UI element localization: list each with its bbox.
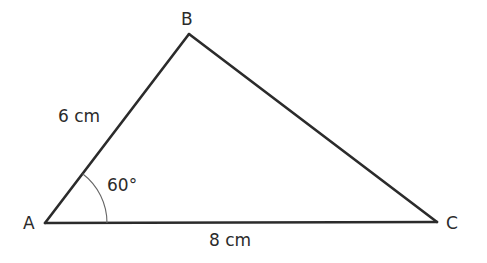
vertex-label-a: A: [23, 215, 35, 232]
side-label-ac: 8 cm: [209, 232, 251, 249]
angle-label-a: 60°: [107, 177, 137, 194]
angle-arc-a: [83, 174, 107, 223]
triangle-diagram: [0, 0, 487, 263]
side-bc: [189, 34, 437, 222]
vertex-label-b: B: [181, 11, 193, 28]
vertex-label-c: C: [446, 215, 458, 232]
side-ac: [45, 222, 437, 223]
side-label-ab: 6 cm: [58, 108, 100, 125]
